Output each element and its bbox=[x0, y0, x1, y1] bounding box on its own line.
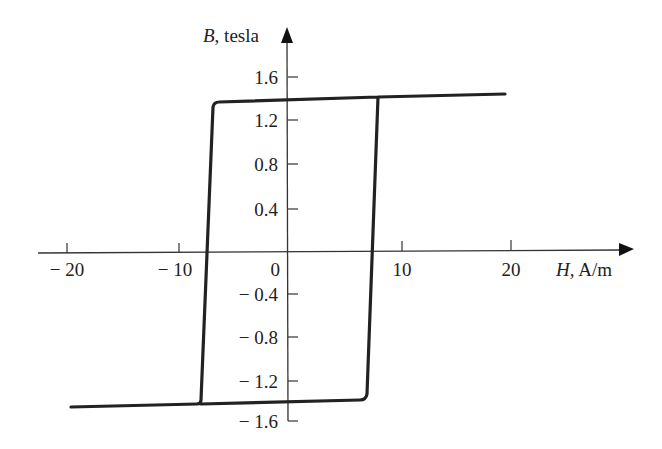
y-tick-label: − 1.2 bbox=[239, 371, 278, 392]
x-axis-arrow-icon bbox=[619, 243, 634, 256]
y-tick-label: − 0.4 bbox=[239, 284, 279, 305]
y-ticks bbox=[288, 77, 298, 421]
y-axis-arrow-icon bbox=[281, 27, 293, 43]
x-axis-label: H, A/m bbox=[555, 259, 612, 280]
y-axis bbox=[287, 40, 288, 421]
y-tick-label: 0.8 bbox=[254, 154, 278, 175]
x-tick-label: − 20 bbox=[50, 259, 84, 280]
x-tick-label: 20 bbox=[502, 259, 521, 280]
x-tick-label: 0 bbox=[271, 259, 281, 280]
x-tick-label: 10 bbox=[393, 259, 412, 280]
y-tick-label: − 1.6 bbox=[239, 411, 278, 432]
y-tick-label: 1.6 bbox=[254, 67, 278, 88]
y-tick-label: 0.4 bbox=[254, 199, 278, 220]
y-tick-label: − 0.8 bbox=[239, 327, 278, 348]
x-tick-label: − 10 bbox=[158, 259, 192, 280]
y-axis-label: B, tesla bbox=[203, 25, 259, 46]
x-axis bbox=[38, 250, 622, 253]
hysteresis-chart: − 20 − 10 0 10 20 1.6 1.2 0.8 0.4 − 0.4 … bbox=[0, 0, 662, 449]
y-tick-label: 1.2 bbox=[254, 110, 278, 131]
